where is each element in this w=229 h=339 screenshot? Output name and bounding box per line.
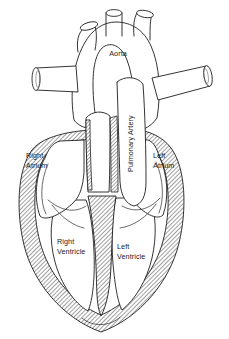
label-aorta: Aorta bbox=[109, 49, 127, 58]
label-left-atrium-line2: Atrium bbox=[153, 161, 174, 170]
label-pulmonary-artery-text: Pulmonary Artery bbox=[126, 115, 135, 172]
label-right-ventricle-line1: Right bbox=[57, 237, 74, 246]
superior-vena-cava bbox=[36, 66, 78, 92]
label-right-atrium-line1: Right bbox=[26, 151, 43, 160]
label-aorta-text: Aorta bbox=[109, 49, 127, 58]
label-right-atrium-line2: Atrium bbox=[26, 161, 47, 170]
label-left-atrium-line1: Left bbox=[153, 151, 165, 160]
heart-diagram-canvas: Aorta Right Atrium Left Atrium Right Ven… bbox=[0, 0, 229, 339]
heart-diagram: Aorta Right Atrium Left Atrium Right Ven… bbox=[0, 0, 229, 339]
label-pulmonary-artery: Pulmonary Artery bbox=[126, 115, 135, 172]
outflow-septum bbox=[110, 116, 118, 192]
label-right-ventricle-line2: Ventricle bbox=[57, 247, 85, 256]
left-carotid-opening bbox=[106, 10, 122, 17]
label-left-ventricle-line1: Left bbox=[117, 242, 129, 251]
label-left-ventricle-line2: Ventricle bbox=[117, 252, 145, 261]
